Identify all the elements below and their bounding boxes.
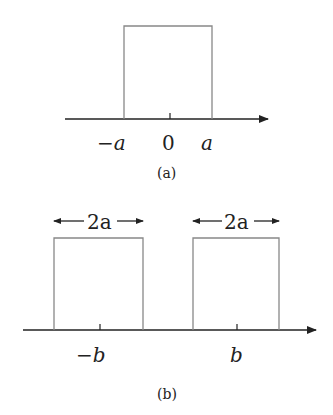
width-label-1: 2a: [87, 210, 112, 234]
label-b: b: [230, 343, 243, 367]
diagram-canvas: −a 0 a (a) 2a 2a −b b (b): [0, 0, 333, 415]
width-label-2: 2a: [224, 210, 249, 234]
caption-a: (a): [157, 165, 176, 181]
rect-pulse-a: [124, 26, 212, 119]
panel-b: 2a 2a −b b (b): [23, 210, 316, 402]
label-minus-a: −a: [97, 131, 126, 155]
rect-pulse-right: [193, 238, 279, 330]
label-zero: 0: [162, 131, 175, 155]
caption-b: (b): [157, 386, 177, 402]
label-minus-b: −b: [76, 343, 106, 367]
rect-pulse-left: [54, 238, 143, 330]
label-a: a: [201, 131, 213, 155]
panel-a: −a 0 a (a): [65, 26, 268, 181]
